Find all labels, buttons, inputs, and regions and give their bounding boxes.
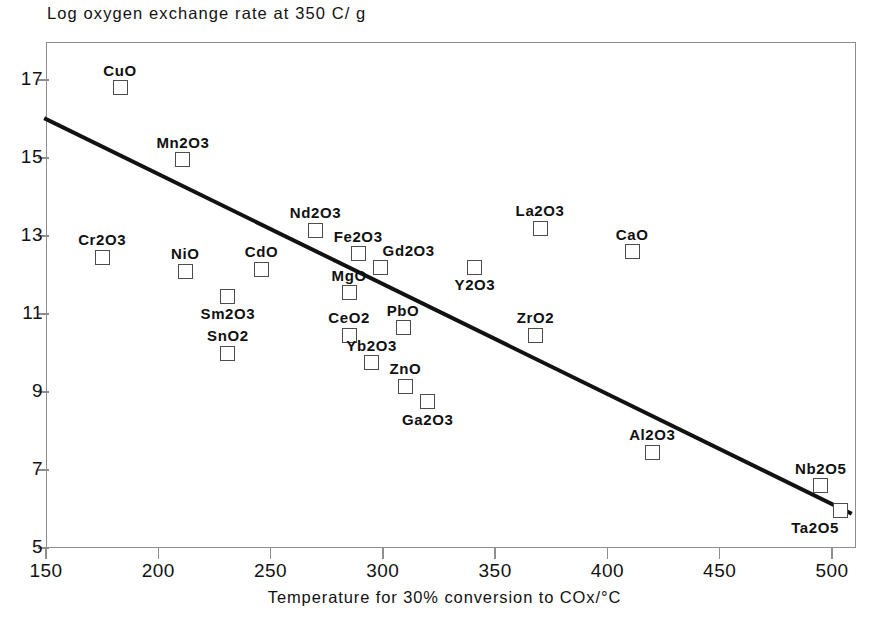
- data-point-label: ZrO2: [517, 309, 554, 326]
- y-tick-label: 17: [0, 68, 43, 90]
- x-axis-title: Temperature for 30% conversion to COx/°C: [0, 588, 889, 607]
- data-point-label: CdO: [245, 243, 278, 260]
- data-point-label: Sm2O3: [201, 305, 256, 322]
- data-point-label: Mn2O3: [156, 134, 209, 151]
- data-point-label: Gd2O3: [383, 242, 435, 259]
- data-point-marker: [467, 260, 482, 275]
- data-point-marker: [625, 244, 640, 259]
- x-tick-mark: [45, 548, 46, 559]
- data-point-label: Fe2O3: [334, 228, 383, 245]
- x-tick-mark: [494, 548, 495, 559]
- data-point-label: Ta2O5: [791, 519, 839, 536]
- data-point-label: CuO: [103, 62, 136, 79]
- data-point-label: CeO2: [328, 309, 370, 326]
- x-tick-mark: [158, 548, 159, 559]
- data-point-label: Nb2O5: [795, 460, 846, 477]
- data-point-marker: [113, 80, 128, 95]
- x-tick-label: 350: [460, 560, 530, 582]
- data-point-label: ZnO: [389, 360, 421, 377]
- data-point-marker: [342, 285, 357, 300]
- data-point-marker: [396, 320, 411, 335]
- data-point-marker: [420, 394, 435, 409]
- y-tick-label: 15: [0, 146, 43, 168]
- x-tick-label: 450: [685, 560, 755, 582]
- data-point-marker: [254, 262, 269, 277]
- data-point-marker: [220, 346, 235, 361]
- data-point-label: PbO: [387, 302, 420, 319]
- x-tick-label: 400: [572, 560, 642, 582]
- data-point-marker: [645, 445, 660, 460]
- data-point-marker: [308, 223, 323, 238]
- x-tick-mark: [270, 548, 271, 559]
- data-point-marker: [528, 328, 543, 343]
- data-point-label: MgO: [332, 267, 367, 284]
- y-tick-label: 11: [0, 302, 43, 324]
- y-tick-label: 13: [0, 224, 43, 246]
- data-point-marker: [351, 246, 366, 261]
- x-tick-mark: [719, 548, 720, 559]
- data-point-label: Yb2O3: [346, 337, 397, 354]
- x-tick-label: 250: [236, 560, 306, 582]
- x-tick-mark: [382, 548, 383, 559]
- data-point-label: CaO: [616, 226, 649, 243]
- data-point-marker: [398, 379, 413, 394]
- data-point-marker: [813, 478, 828, 493]
- y-tick-label: 7: [0, 458, 43, 480]
- data-point-label: SnO2: [207, 327, 249, 344]
- x-tick-mark: [607, 548, 608, 559]
- y-tick-label: 5: [0, 536, 43, 558]
- data-point-label: NiO: [171, 245, 199, 262]
- x-tick-label: 150: [11, 560, 81, 582]
- x-tick-label: 200: [123, 560, 193, 582]
- data-point-label: Al2O3: [629, 426, 675, 443]
- x-tick-mark: [831, 548, 832, 559]
- data-point-marker: [178, 264, 193, 279]
- y-tick-label: 9: [0, 380, 43, 402]
- data-point-marker: [833, 503, 848, 518]
- plot-frame: [46, 42, 856, 548]
- x-tick-label: 300: [348, 560, 418, 582]
- data-point-label: Nd2O3: [290, 204, 341, 221]
- data-point-label: La2O3: [516, 202, 565, 219]
- data-point-marker: [364, 355, 379, 370]
- chart-root: Log oxygen exchange rate at 350 C/ g 579…: [0, 0, 889, 628]
- data-point-marker: [220, 289, 235, 304]
- data-point-marker: [175, 152, 190, 167]
- data-point-label: Ga2O3: [402, 411, 453, 428]
- data-point-label: Cr2O3: [78, 231, 126, 248]
- data-point-marker: [373, 260, 388, 275]
- x-tick-label: 500: [797, 560, 867, 582]
- plot-title: Log oxygen exchange rate at 350 C/ g: [47, 4, 366, 23]
- data-point-marker: [533, 221, 548, 236]
- data-point-label: Y2O3: [455, 276, 496, 293]
- data-point-marker: [95, 250, 110, 265]
